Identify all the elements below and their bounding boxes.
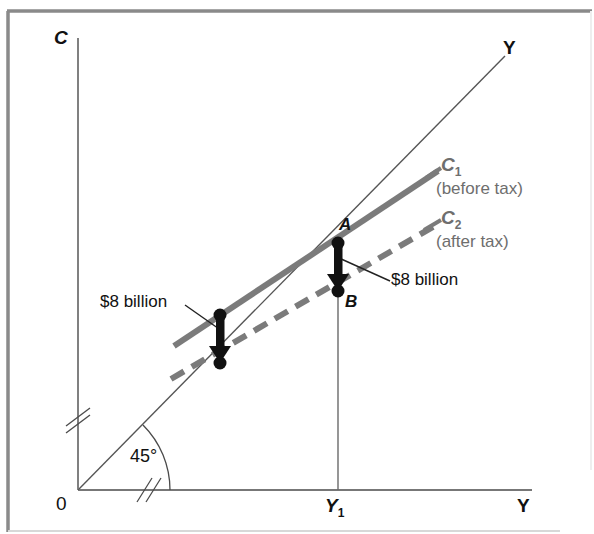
- vertical-axis: [66, 38, 90, 490]
- point-label-b: B: [345, 293, 357, 310]
- curve-note-c1: (before tax): [436, 180, 523, 197]
- figure-frame: [7, 11, 592, 532]
- x-tick-label-y1-text: Y: [325, 495, 338, 516]
- x-tick-label-y1: Y1: [325, 496, 344, 519]
- curve-label-c2-text: C: [441, 207, 455, 228]
- annotation-shift-right: $8 billion: [391, 271, 458, 288]
- curve-label-c1: C1: [441, 155, 461, 178]
- annotation-shift-left: $8 billion: [100, 293, 167, 310]
- curve-label-c1-sub: 1: [455, 165, 462, 179]
- origin-label: 0: [56, 494, 67, 513]
- curve-label-c2-sub: 2: [455, 218, 462, 232]
- horizontal-axis: [78, 478, 532, 502]
- curve-c1: [174, 171, 438, 346]
- reference-line-label-y: Y: [503, 38, 516, 57]
- point-label-a: A: [339, 216, 351, 233]
- angle-label-45: 45°: [130, 447, 157, 465]
- economics-diagram-svg: [0, 0, 594, 534]
- x-tick-label-y1-sub: 1: [338, 506, 345, 520]
- axis-label-c: C: [54, 28, 68, 47]
- axis-label-y: Y: [517, 496, 530, 515]
- curve-note-c2: (after tax): [436, 233, 509, 250]
- figure-canvas: C Y C1 (before tax) C2 (after tax) A B $…: [0, 0, 594, 534]
- curve-label-c1-text: C: [441, 154, 455, 175]
- curve-c2: [171, 224, 438, 379]
- curve-label-c2: C2: [441, 208, 461, 231]
